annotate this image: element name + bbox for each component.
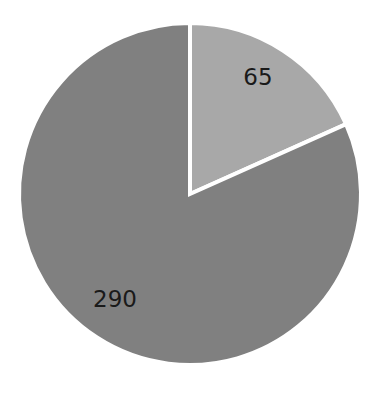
pie-chart-figure: 65290 (0, 0, 373, 410)
pie-chart-svg: 65290 (0, 0, 373, 410)
pie-slices-group (19, 23, 361, 365)
pie-slice-label-65: 65 (243, 64, 272, 90)
pie-slice-label-290: 290 (93, 286, 137, 312)
